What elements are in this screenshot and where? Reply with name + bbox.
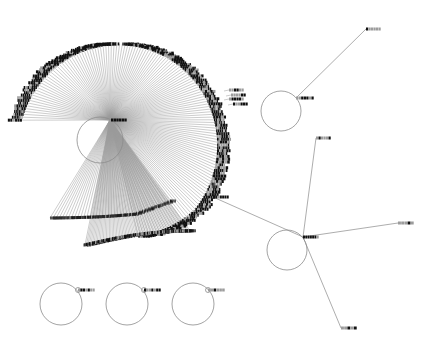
label-glyph	[211, 108, 212, 111]
label-glyph	[216, 185, 218, 188]
label-glyph	[141, 45, 143, 48]
leaf-label	[209, 102, 223, 105]
leaf-label	[217, 155, 230, 158]
label-glyph	[217, 149, 219, 152]
label-glyph	[27, 94, 29, 97]
label-glyph	[376, 28, 378, 31]
label-glyph	[217, 289, 220, 292]
label-glyph	[145, 232, 146, 235]
label-glyph	[225, 124, 227, 127]
label-glyph	[48, 61, 50, 64]
label-glyph	[233, 103, 235, 106]
label-glyph	[93, 215, 94, 218]
label-glyph	[99, 215, 100, 218]
label-glyph	[94, 241, 95, 244]
label-glyph	[31, 94, 33, 97]
label-glyph	[179, 230, 180, 233]
label-glyph	[104, 215, 105, 218]
label-glyph	[222, 141, 224, 144]
label-glyph	[27, 102, 28, 105]
label-glyph	[164, 230, 165, 233]
label-glyph	[20, 110, 21, 113]
label-glyph	[226, 146, 227, 149]
label-glyph	[118, 236, 119, 239]
label-glyph	[379, 28, 381, 31]
label-glyph	[217, 183, 218, 186]
label-glyph	[22, 102, 23, 105]
label-glyph	[214, 169, 216, 172]
label-glyph	[17, 107, 19, 110]
label-glyph	[176, 61, 178, 64]
leaf-label	[124, 213, 130, 216]
label-glyph	[149, 289, 151, 292]
label-glyph	[217, 135, 219, 138]
node-label	[208, 289, 225, 292]
label-glyph	[161, 230, 162, 233]
label-glyph	[138, 233, 139, 236]
label-glyph	[216, 169, 218, 172]
label-glyph	[169, 57, 171, 60]
label-glyph	[212, 108, 213, 111]
label-glyph	[113, 42, 114, 45]
label-glyph	[217, 100, 218, 103]
label-glyph	[221, 121, 222, 124]
label-glyph	[219, 289, 222, 292]
label-glyph	[75, 216, 76, 219]
label-glyph	[226, 152, 227, 155]
label-glyph	[216, 113, 218, 116]
label-glyph	[161, 203, 162, 206]
label-glyph	[160, 204, 161, 207]
label-glyph	[213, 102, 215, 105]
label-glyph	[211, 289, 214, 292]
label-glyph	[166, 202, 167, 205]
label-glyph	[167, 55, 169, 58]
label-glyph	[232, 89, 234, 92]
label-glyph	[63, 54, 64, 57]
label-glyph	[213, 105, 214, 108]
label-glyph	[95, 241, 96, 244]
label-glyph	[176, 230, 177, 233]
label-glyph	[234, 89, 236, 92]
label-glyph	[159, 289, 161, 292]
side-label	[231, 94, 246, 97]
label-glyph	[162, 203, 163, 206]
label-glyph	[58, 216, 59, 219]
edge	[303, 237, 341, 328]
label-glyph	[217, 138, 219, 141]
label-glyph	[15, 116, 16, 119]
label-glyph	[217, 166, 219, 169]
label-glyph	[220, 105, 221, 108]
label-glyph	[21, 99, 22, 102]
label-glyph	[24, 86, 26, 89]
label-glyph	[223, 138, 225, 141]
label-glyph	[227, 161, 230, 164]
label-glyph	[138, 212, 139, 215]
label-glyph	[154, 289, 156, 292]
label-glyph	[216, 118, 218, 121]
label-glyph	[124, 213, 125, 216]
label-glyph	[182, 229, 183, 232]
label-glyph	[109, 215, 110, 218]
label-glyph	[217, 188, 219, 191]
label-glyph	[146, 289, 148, 292]
leaf-label	[14, 107, 25, 110]
label-glyph	[180, 229, 181, 232]
label-glyph	[24, 99, 25, 102]
label-glyph	[216, 180, 218, 183]
leaf-label	[212, 177, 226, 180]
label-glyph	[191, 229, 192, 232]
label-glyph	[186, 229, 187, 232]
label-glyph	[220, 124, 222, 127]
label-glyph	[22, 113, 23, 116]
label-glyph	[217, 152, 218, 155]
label-glyph	[215, 175, 218, 178]
label-glyph	[226, 135, 228, 138]
label-glyph	[40, 66, 42, 69]
label-glyph	[106, 238, 107, 241]
label-glyph	[215, 183, 216, 186]
label-glyph	[217, 155, 219, 158]
label-glyph	[211, 203, 213, 206]
label-glyph	[296, 97, 298, 100]
label-glyph	[220, 127, 222, 130]
label-glyph	[167, 201, 168, 204]
